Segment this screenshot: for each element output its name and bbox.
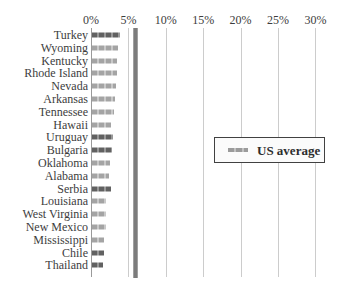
category-label: Oklahoma bbox=[38, 157, 88, 169]
bar bbox=[92, 225, 106, 230]
bar bbox=[92, 45, 118, 50]
bar bbox=[92, 71, 117, 76]
category-label: Rhode Island bbox=[24, 67, 88, 79]
bar-chart: 0%5%10%15%20%25%30% TurkeyWyomingKentuck… bbox=[0, 0, 344, 287]
category-label: Serbia bbox=[57, 183, 88, 195]
bar bbox=[92, 263, 103, 268]
category-label: Tennessee bbox=[39, 106, 88, 118]
bar bbox=[92, 173, 109, 178]
bar bbox=[92, 250, 104, 255]
bar bbox=[92, 199, 106, 204]
bar bbox=[92, 84, 116, 89]
category-label: Chile bbox=[62, 247, 88, 259]
bar bbox=[92, 186, 111, 191]
category-label: Arkansas bbox=[43, 93, 88, 105]
x-tick-label: 25% bbox=[267, 13, 289, 27]
category-label: New Mexico bbox=[26, 221, 88, 233]
bar bbox=[92, 148, 112, 153]
legend-swatch-us-average bbox=[228, 148, 248, 152]
category-label: Turkey bbox=[54, 29, 88, 41]
us-average-reference-line bbox=[133, 28, 138, 278]
bar bbox=[92, 135, 113, 140]
x-tick-label: 20% bbox=[230, 13, 252, 27]
gridline bbox=[128, 28, 129, 277]
category-label: Alabama bbox=[45, 170, 88, 182]
bar bbox=[92, 237, 104, 242]
category-label: Wyoming bbox=[41, 42, 88, 54]
x-tick-label: 0% bbox=[83, 13, 99, 27]
bar bbox=[92, 122, 111, 127]
bar bbox=[92, 33, 120, 38]
category-label: West Virginia bbox=[22, 208, 88, 220]
bar bbox=[92, 58, 117, 63]
category-label: Nevada bbox=[51, 80, 88, 92]
category-label: Bulgaria bbox=[47, 144, 88, 156]
category-label: Thailand bbox=[45, 259, 88, 271]
category-label: Louisiana bbox=[41, 195, 88, 207]
category-label: Hawaii bbox=[53, 119, 88, 131]
bar bbox=[92, 212, 106, 217]
x-tick-label: 5% bbox=[120, 13, 136, 27]
category-label: Kentucky bbox=[41, 55, 88, 67]
x-tick-label: 15% bbox=[192, 13, 214, 27]
gridline bbox=[203, 28, 204, 277]
x-tick-label: 30% bbox=[304, 13, 326, 27]
legend-label: US average bbox=[257, 144, 320, 157]
category-label: Uruguay bbox=[46, 131, 88, 143]
bar bbox=[92, 109, 114, 114]
legend-box: US average bbox=[214, 137, 325, 163]
category-label: Mississippi bbox=[33, 234, 88, 246]
gridline bbox=[166, 28, 167, 277]
bar bbox=[92, 161, 110, 166]
bar bbox=[92, 97, 115, 102]
x-tick-label: 10% bbox=[155, 13, 177, 27]
